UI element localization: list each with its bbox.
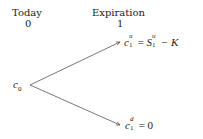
edge-up [30,42,120,85]
expiration-time: 1 [117,18,123,29]
down-node: cd1 = 0 [125,119,153,131]
root-node: c0 [13,79,21,90]
up-node: cu1 = Su1 − K [124,36,178,48]
up-rhs-tail: − K [161,36,179,48]
edge-down [30,85,120,125]
expiration-label: Expiration [92,7,145,18]
today-label: Today [12,7,42,18]
today-time: 0 [25,18,31,29]
